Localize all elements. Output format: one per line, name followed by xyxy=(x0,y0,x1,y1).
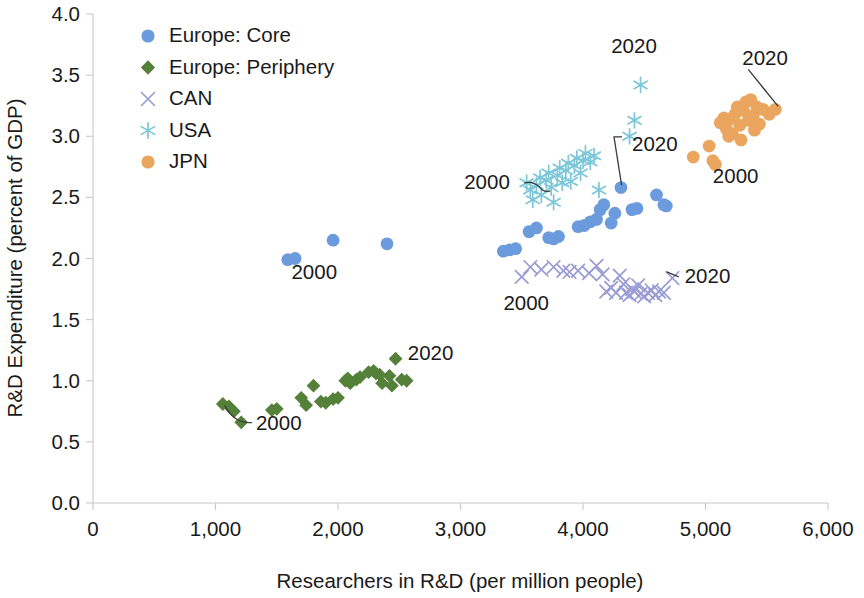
data-point xyxy=(628,113,641,128)
x-tick-label: 4,000 xyxy=(557,517,608,540)
y-tick-labels: 0.00.51.01.52.02.53.03.54.0 xyxy=(52,2,81,514)
annotation-2020: 2020 xyxy=(408,341,454,364)
legend-item-label: CAN xyxy=(169,86,212,109)
legend-item-label: Europe: Core xyxy=(169,23,291,46)
annotation-label: 2000 xyxy=(464,170,510,193)
data-point xyxy=(608,207,621,220)
data-point xyxy=(535,263,548,276)
annotations-group: 2000202020002020200020202000202020002020 xyxy=(225,34,788,434)
legend-marker-icon xyxy=(141,60,155,74)
data-point xyxy=(735,134,748,147)
chart-legend: Europe: CoreEurope: PeripheryCANUSAJPN xyxy=(141,23,335,172)
annotation-label: 2000 xyxy=(713,164,759,187)
data-point xyxy=(596,268,609,281)
legend-marker-icon xyxy=(141,92,154,105)
series-usa xyxy=(520,77,647,209)
annotation-2020: 2020 xyxy=(667,264,731,287)
y-tick-label: 1.5 xyxy=(52,308,81,331)
data-point xyxy=(307,379,321,393)
series-europe-core xyxy=(281,181,672,266)
x-axis-title: Researchers in R&D (per million people) xyxy=(277,569,644,592)
data-point xyxy=(631,202,644,215)
annotation-2000: 2000 xyxy=(713,164,759,187)
legend-item-usa[interactable]: USA xyxy=(141,118,211,141)
x-tick-label: 3,000 xyxy=(435,517,486,540)
data-point xyxy=(769,103,782,116)
y-tick-label: 3.5 xyxy=(52,63,81,86)
data-point xyxy=(590,260,603,273)
legend-item-label: USA xyxy=(169,118,211,141)
annotation-2020: 2020 xyxy=(611,34,657,57)
data-point xyxy=(592,183,605,198)
annotation-label: 2020 xyxy=(611,34,657,57)
legend-item-europe-periphery[interactable]: Europe: Periphery xyxy=(141,55,335,78)
legend-marker-icon xyxy=(141,123,154,139)
data-point xyxy=(547,195,560,210)
series-jpn xyxy=(687,93,782,171)
data-point xyxy=(660,200,673,213)
annotation-2000: 2000 xyxy=(291,260,337,283)
y-tick-label: 4.0 xyxy=(52,2,81,25)
x-tick-label: 2,000 xyxy=(312,517,363,540)
legend-item-can[interactable]: CAN xyxy=(141,86,212,109)
annotation-label: 2000 xyxy=(256,411,302,434)
data-point xyxy=(552,230,565,243)
series-europe-periphery xyxy=(216,352,414,429)
annotation-2000: 2000 xyxy=(503,291,549,314)
annotation-label: 2020 xyxy=(408,341,454,364)
y-tick-label: 0.0 xyxy=(52,491,81,514)
annotation-label: 2020 xyxy=(632,132,678,155)
x-tick-label: 1,000 xyxy=(190,517,241,540)
y-tick-label: 0.5 xyxy=(52,430,81,453)
data-point xyxy=(381,237,394,250)
data-points-group xyxy=(216,77,782,429)
annotation-label: 2000 xyxy=(291,260,337,283)
annotation-label: 2020 xyxy=(685,264,731,287)
chart-canvas: 0.00.51.01.52.02.53.03.54.0 01,0002,0003… xyxy=(0,0,864,598)
legend-item-jpn[interactable]: JPN xyxy=(141,149,207,172)
data-point xyxy=(327,234,340,247)
data-point xyxy=(687,151,700,164)
data-point xyxy=(515,271,528,284)
data-point xyxy=(526,192,539,207)
y-tick-label: 3.0 xyxy=(52,124,81,147)
data-point xyxy=(547,261,560,274)
legend-item-label: JPN xyxy=(169,149,208,172)
scatter-chart: 0.00.51.01.52.02.53.03.54.0 01,0002,0003… xyxy=(0,0,864,598)
x-tick-labels: 01,0002,0003,0004,0005,0006,000 xyxy=(87,517,853,540)
data-point xyxy=(597,198,610,211)
data-point xyxy=(753,118,766,131)
data-point xyxy=(509,242,522,255)
annotation-label: 2000 xyxy=(503,291,549,314)
x-tick-label: 0 xyxy=(87,517,98,540)
data-point xyxy=(634,77,647,92)
x-tick-label: 5,000 xyxy=(680,517,731,540)
y-tick-label: 2.5 xyxy=(52,185,81,208)
data-point xyxy=(389,352,403,366)
legend-marker-icon xyxy=(141,155,154,168)
x-tick-label: 6,000 xyxy=(802,517,853,540)
legend-item-label: Europe: Periphery xyxy=(169,55,335,78)
data-point xyxy=(703,140,716,153)
data-point xyxy=(530,222,543,235)
y-tick-label: 2.0 xyxy=(52,247,81,270)
y-tick-label: 1.0 xyxy=(52,369,81,392)
y-axis-title: R&D Expenditure (percent of GDP) xyxy=(3,98,26,417)
legend-item-europe-core[interactable]: Europe: Core xyxy=(141,23,291,46)
annotation-label: 2020 xyxy=(742,46,788,69)
legend-marker-icon xyxy=(141,29,154,42)
